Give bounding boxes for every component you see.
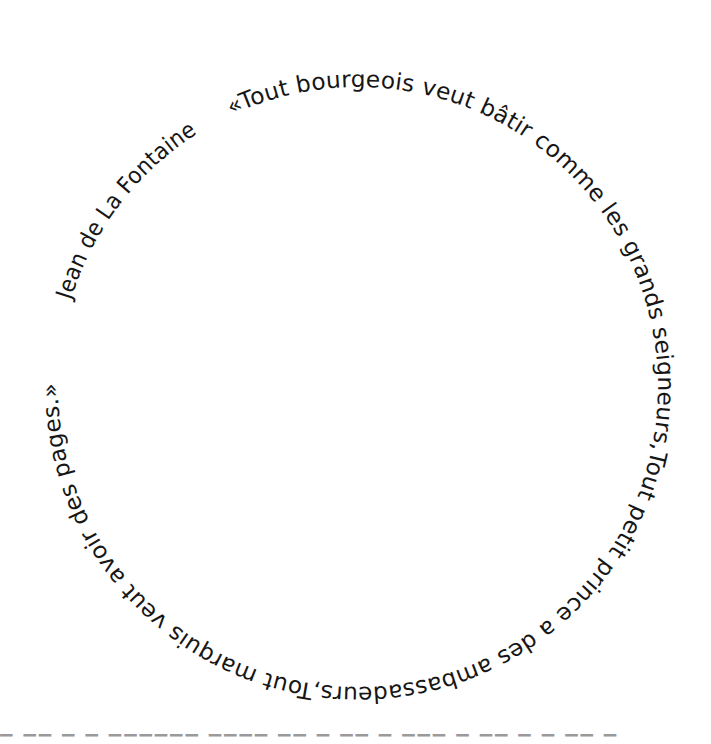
cutoff-text-row: ▔ ▔▔ ▔ ▔ ▔▔▔▔▔▔ ▔▔▔▔ ▔▔ ▔ ▔▔ ▔ ▔▔▔ ▔ ▔▔ … [0,731,711,744]
circular-text-svg: Jean de La Fontaine «Tout bourgeois veut… [0,0,711,744]
author-name: Jean de La Fontaine [50,116,200,304]
author-name-path: Jean de La Fontaine [50,116,200,304]
circular-quote-artwork: Jean de La Fontaine «Tout bourgeois veut… [0,0,711,744]
